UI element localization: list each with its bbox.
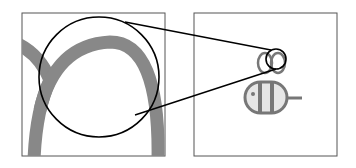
bee-stripe-1 (258, 82, 262, 113)
bee-eye (251, 92, 255, 96)
bee-body (245, 82, 287, 113)
full-view-panel (194, 13, 337, 156)
bee-stripe-2 (270, 82, 274, 113)
diagram-canvas (0, 0, 356, 168)
zoomed-panel (18, 13, 165, 160)
